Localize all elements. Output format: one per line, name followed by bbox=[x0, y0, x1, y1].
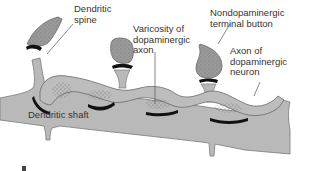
scale-mark bbox=[22, 166, 26, 171]
label-dendritic-spine: Dendritic spine bbox=[74, 4, 112, 25]
label-line: axon bbox=[133, 45, 190, 56]
label-line: Axon of bbox=[230, 46, 287, 57]
label-line: spine bbox=[74, 15, 112, 26]
terminal-bulb-middle bbox=[111, 38, 134, 88]
label-dendritic-shaft: Dendritic shaft bbox=[28, 110, 89, 121]
label-nondopaminergic-terminal: Nondopaminergic terminal button bbox=[210, 8, 284, 29]
label-axon-dopaminergic: Axon of dopaminergic neuron bbox=[230, 46, 287, 78]
label-line: terminal button bbox=[210, 19, 284, 30]
label-line: Nondopaminergic bbox=[210, 8, 284, 19]
label-varicosity: Varicosity of dopaminergic axon bbox=[133, 24, 190, 56]
label-line: Dendritic bbox=[74, 4, 112, 15]
dendritic-spine bbox=[26, 17, 62, 51]
label-line: Varicosity of bbox=[133, 24, 190, 35]
label-line: neuron bbox=[230, 67, 287, 78]
